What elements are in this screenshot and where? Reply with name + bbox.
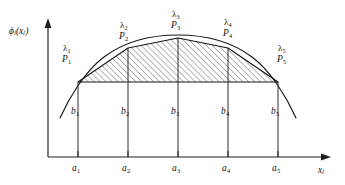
a-subscript-2: 2 (127, 167, 130, 174)
y-axis-label: ϕⱼ(xⱼ) (9, 27, 28, 37)
b-label-2: b2 (121, 107, 129, 118)
a-subscript-4: 4 (227, 167, 230, 174)
a-subscript-3: 3 (177, 167, 180, 174)
point-symbol-1: P (62, 54, 68, 64)
a-label-2: a2 (122, 164, 130, 175)
lambda-label-5: λ5 (278, 44, 286, 54)
a-label-1: a1 (72, 164, 80, 175)
ordinate-lines (78, 38, 278, 157)
b-label-1: b1 (71, 107, 79, 118)
x-axis-arrowhead (321, 154, 331, 161)
point-label-3: P3 (171, 21, 180, 32)
figure-container: ϕⱼ(xⱼ) xⱼ λ1 λ2 λ3 λ4 λ5 P1 P2 P3 P4 P5 … (0, 0, 345, 185)
x-axis-ticks (78, 151, 278, 157)
a-subscript-5: 5 (277, 167, 280, 174)
point-symbol-4: P (223, 28, 229, 38)
point-symbol-3: P (171, 20, 177, 30)
y-axis-label-text: ϕⱼ(xⱼ) (9, 26, 28, 36)
a-label-3: a3 (172, 164, 180, 175)
point-subscript-3: 3 (177, 24, 180, 31)
point-subscript-1: 1 (68, 58, 71, 65)
b-subscript-4: 4 (226, 110, 229, 117)
axes (45, 18, 331, 160)
b-subscript-3: 3 (176, 110, 179, 117)
a-label-4: a4 (222, 164, 230, 175)
b-subscript-1: 1 (76, 110, 79, 117)
point-subscript-4: 4 (229, 32, 232, 39)
point-label-5: P5 (277, 55, 286, 66)
a-label-5: a5 (272, 164, 280, 175)
point-label-1: P1 (62, 55, 71, 66)
lambda-label-1: λ1 (63, 44, 71, 54)
lambda-label-3: λ3 (172, 10, 180, 20)
point-label-4: P4 (223, 29, 232, 40)
b-label-3: b3 (171, 107, 179, 118)
point-subscript-2: 2 (125, 35, 128, 42)
b-subscript-2: 2 (126, 110, 129, 117)
point-subscript-5: 5 (283, 58, 286, 65)
y-axis-arrowhead (45, 18, 52, 28)
x-axis-label: xⱼ (318, 166, 324, 176)
lambda-label-4: λ4 (224, 18, 232, 28)
b-subscript-5: 5 (276, 110, 279, 117)
b-label-4: b4 (221, 107, 229, 118)
point-label-2: P2 (119, 32, 128, 43)
b-label-5: b5 (271, 107, 279, 118)
lambda-label-2: λ2 (120, 21, 128, 31)
x-axis-label-text: xⱼ (318, 165, 324, 175)
point-symbol-2: P (119, 31, 125, 41)
a-subscript-1: 1 (77, 167, 80, 174)
point-symbol-5: P (277, 54, 283, 64)
